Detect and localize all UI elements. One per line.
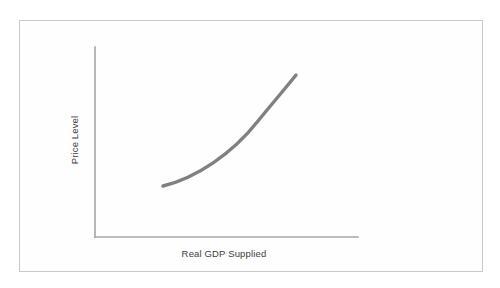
y-axis-label: Price Level — [69, 116, 80, 165]
x-axis-label: Real GDP Supplied — [182, 248, 267, 259]
aggregate-supply-curve — [163, 75, 296, 186]
economics-figure: Price Level Real GDP Supplied — [0, 0, 500, 288]
